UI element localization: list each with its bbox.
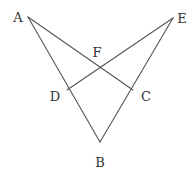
label-F: F <box>92 45 101 60</box>
label-A: A <box>12 10 23 25</box>
segment-ED <box>67 18 173 90</box>
segment-AC <box>28 17 133 90</box>
label-B: B <box>95 155 105 170</box>
segment-AB <box>28 17 100 142</box>
label-C: C <box>141 89 151 104</box>
geometry-diagram: A E F D C B <box>0 0 195 180</box>
segment-EB <box>100 18 173 142</box>
label-D: D <box>50 89 60 104</box>
label-E: E <box>177 11 187 26</box>
